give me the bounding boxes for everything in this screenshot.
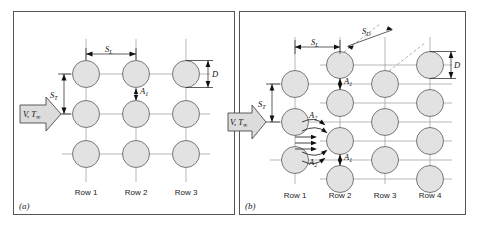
sd-arrow-left bbox=[347, 46, 354, 50]
panel-a-drawing: SL ST D A1 V, T∞ Row 1 Row bbox=[14, 12, 236, 216]
st-arrow-bottom bbox=[62, 108, 67, 115]
tube bbox=[173, 61, 200, 88]
d-arrow-top bbox=[206, 61, 211, 68]
tube bbox=[73, 101, 100, 128]
row-label: Row 3 bbox=[175, 188, 198, 197]
d-arrow-top bbox=[449, 52, 454, 59]
label-sl: SL bbox=[105, 44, 113, 55]
a2-arrow-upper-out bbox=[321, 128, 328, 134]
row-label: Row 4 bbox=[419, 191, 442, 200]
tube bbox=[417, 90, 444, 117]
tube bbox=[282, 71, 309, 98]
tube bbox=[327, 166, 354, 193]
tube bbox=[73, 141, 100, 168]
tube bbox=[327, 90, 354, 117]
a1-bottom-arrow-up bbox=[338, 155, 342, 161]
streamline-arrow bbox=[311, 141, 317, 145]
row-label: Row 1 bbox=[284, 191, 307, 200]
panel-b-label: (b) bbox=[245, 201, 256, 211]
tube bbox=[123, 101, 150, 128]
row-label: Row 1 bbox=[75, 188, 98, 197]
tube bbox=[327, 128, 354, 155]
tube bbox=[372, 109, 399, 136]
figure-root: SL ST D A1 V, T∞ Row 1 Row bbox=[0, 0, 479, 226]
tube bbox=[173, 101, 200, 128]
tube bbox=[73, 61, 100, 88]
label-a1: A1 bbox=[139, 86, 148, 97]
panel-b-staggered: SL ST SD D bbox=[239, 11, 466, 215]
streamline-arrow bbox=[311, 147, 317, 151]
label-st: ST bbox=[258, 99, 266, 110]
d-arrow-bottom bbox=[449, 72, 454, 79]
panel-b-drawing: SL ST SD D bbox=[240, 12, 467, 216]
tube bbox=[372, 147, 399, 174]
tube bbox=[417, 128, 444, 155]
panel-a-aligned: SL ST D A1 V, T∞ Row 1 Row bbox=[13, 11, 235, 215]
st-arrow-top bbox=[270, 84, 275, 91]
tube bbox=[173, 141, 200, 168]
tube bbox=[282, 109, 309, 136]
tube bbox=[123, 141, 150, 168]
tube bbox=[327, 52, 354, 79]
row-label: Row 2 bbox=[329, 191, 352, 200]
a1-bottom-arrow-down bbox=[338, 160, 342, 166]
st-arrow-top bbox=[62, 74, 67, 81]
tube bbox=[417, 166, 444, 193]
sl-arrow-right bbox=[334, 45, 340, 50]
tube bbox=[417, 52, 444, 79]
a1-top-arrow-up bbox=[338, 79, 342, 85]
sl-arrow-left bbox=[295, 45, 301, 50]
tube bbox=[372, 71, 399, 98]
a1-arrow-bottom bbox=[134, 95, 138, 101]
label-a1-bottom: A1 bbox=[343, 152, 352, 163]
sl-arrow-left bbox=[86, 51, 93, 56]
a2-arrow-lower-out bbox=[321, 150, 328, 156]
label-d: D bbox=[453, 60, 461, 70]
label-sd: SD bbox=[362, 26, 371, 37]
a1-arrow-top bbox=[134, 89, 138, 95]
row-label: Row 3 bbox=[374, 191, 397, 200]
st-arrow-bottom bbox=[270, 116, 275, 123]
tube bbox=[282, 147, 309, 174]
label-a2-lower: A2 bbox=[308, 157, 317, 168]
label-st: ST bbox=[50, 90, 58, 101]
label-a2-upper: A2 bbox=[308, 110, 317, 121]
d-arrow-bottom bbox=[206, 81, 211, 88]
streamline-arrow bbox=[311, 135, 317, 139]
label-sl: SL bbox=[311, 37, 319, 48]
a1-top-arrow-down bbox=[338, 84, 342, 90]
label-a1-top: A1 bbox=[343, 76, 352, 87]
sl-arrow-right bbox=[130, 51, 137, 56]
label-d: D bbox=[211, 69, 219, 79]
tube bbox=[123, 61, 150, 88]
row-label: Row 2 bbox=[125, 188, 148, 197]
a2-arrow-lower-in bbox=[319, 158, 326, 164]
panel-a-label: (a) bbox=[19, 201, 30, 211]
